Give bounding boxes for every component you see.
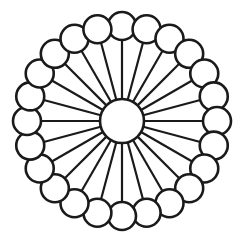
radial-rosette-diagram <box>0 0 244 244</box>
outer-node-circle-24 <box>83 15 111 43</box>
center-hub-circle <box>100 99 144 143</box>
center-hub-group <box>100 99 144 143</box>
figure-root <box>0 0 244 244</box>
